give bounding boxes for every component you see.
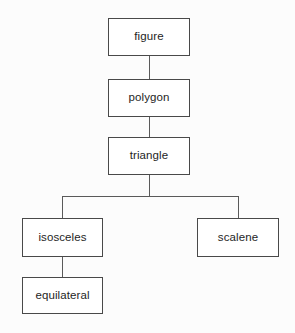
edge-figure-to-polygon	[149, 56, 150, 79]
node-scalene[interactable]: scalene	[197, 218, 279, 257]
node-label-equilateral: equilateral	[35, 290, 89, 302]
node-isosceles[interactable]: isosceles	[22, 218, 103, 257]
edge-bus-to-scalene	[238, 196, 239, 219]
node-equilateral[interactable]: equilateral	[22, 277, 103, 314]
edge-bus-to-isosceles	[62, 196, 63, 219]
edge-branch-bus	[62, 196, 239, 197]
edge-isosceles-to-equilateral	[62, 257, 63, 277]
edge-triangle-stem	[149, 175, 150, 197]
node-label-scalene: scalene	[218, 232, 258, 244]
node-triangle[interactable]: triangle	[108, 137, 190, 175]
node-label-triangle: triangle	[130, 150, 169, 162]
node-figure[interactable]: figure	[108, 18, 190, 56]
node-polygon[interactable]: polygon	[108, 79, 190, 117]
node-label-figure: figure	[134, 31, 163, 43]
node-label-polygon: polygon	[129, 92, 170, 104]
node-label-isosceles: isosceles	[38, 232, 86, 244]
edge-polygon-to-triangle	[149, 117, 150, 137]
hierarchy-diagram: figure polygon triangle isosceles scalen…	[0, 0, 295, 333]
